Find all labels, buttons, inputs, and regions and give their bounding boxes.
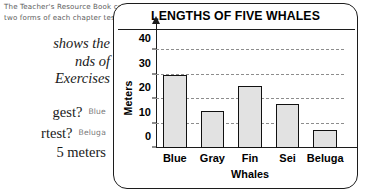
question-row-1: gest?Blue — [0, 103, 106, 121]
prose-line-2: nds of — [0, 53, 110, 71]
y-axis-title: Meters — [122, 68, 134, 128]
y-tick-label: 0 — [145, 130, 151, 142]
question-answer-1: Blue — [82, 107, 106, 116]
prose-block: shows the nds of Exercises — [0, 35, 110, 88]
bar-blue — [163, 75, 187, 148]
plot-area: 010203040 BlueGrayFinSeiBeluga — [156, 38, 344, 148]
bar-group: Fin — [238, 38, 262, 148]
bar-fin — [238, 86, 262, 148]
bar-group: Beluga — [313, 38, 337, 148]
bars-layer: BlueGrayFinSeiBeluga — [156, 38, 344, 148]
bar-group: Blue — [163, 38, 187, 148]
figure-box: LENGTHS OF FIVE WHALES Meters 010203040 … — [113, 3, 358, 189]
prose-line-1: shows the — [0, 35, 110, 53]
y-axis-arrow-icon — [152, 16, 160, 24]
bar-group: Gray — [201, 38, 225, 148]
x-tick-label-beluga: Beluga — [303, 152, 347, 164]
y-tick-label: 20 — [139, 81, 151, 93]
question-row-2: rtest?Beluga — [0, 124, 106, 142]
bar-group: Sei — [276, 38, 300, 148]
y-tick-label: 30 — [139, 57, 151, 69]
x-axis-title: Whales — [156, 168, 344, 180]
chart-title: LENGTHS OF FIVE WHALES — [114, 9, 357, 23]
question-prompt-2: rtest? — [41, 125, 72, 141]
plot-wrapper: Meters 010203040 BlueGrayFinSeiBeluga Wh… — [114, 30, 357, 188]
bar-beluga — [313, 130, 337, 148]
y-tick-label: 40 — [139, 32, 151, 44]
textbook-text-column: The Teacher's Resource Book contains two… — [0, 0, 120, 191]
question-prompt-1: gest? — [53, 104, 83, 120]
question-answer-2: Beluga — [73, 128, 106, 137]
bar-gray — [201, 111, 225, 148]
bar-sei — [276, 104, 300, 148]
tail-line: 5 meters — [0, 144, 106, 161]
prose-line-3: Exercises — [0, 70, 110, 88]
y-tick-label: 10 — [139, 106, 151, 118]
